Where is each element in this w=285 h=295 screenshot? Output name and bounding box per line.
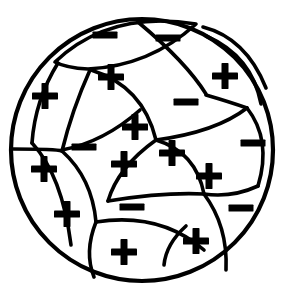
sign-bar-horizontal: [72, 144, 97, 151]
sign-bar-horizontal: [156, 35, 181, 42]
sign-bar-vertical: [121, 151, 128, 177]
minus-sign: −: [120, 204, 145, 211]
sign-bar-vertical: [41, 156, 48, 182]
minus-sign: −: [93, 32, 118, 39]
figure-root: Mosaic of curved cells inside a circle A…: [0, 0, 285, 295]
minus-sign: −: [156, 35, 181, 42]
sign-bar-vertical: [169, 140, 176, 166]
minus-sign: −: [174, 99, 199, 106]
sign-bar-vertical: [193, 228, 200, 254]
sign-bar-horizontal: [229, 205, 254, 212]
sign-bar-horizontal: [93, 32, 118, 39]
sign-bar-vertical: [42, 83, 49, 109]
sign-bar-vertical: [132, 114, 139, 140]
minus-sign: −: [229, 205, 254, 212]
sign-bar-vertical: [108, 64, 115, 90]
sign-bar-horizontal: [120, 204, 145, 211]
sign-bar-vertical: [222, 63, 229, 89]
sign-bar-vertical: [206, 163, 213, 189]
sign-bar-vertical: [64, 201, 71, 227]
minus-sign: −: [72, 144, 97, 151]
sign-bar-vertical: [121, 239, 128, 265]
sign-bar-horizontal: [241, 140, 266, 147]
minus-sign: −: [241, 140, 266, 147]
sign-bar-horizontal: [174, 99, 199, 106]
charge-mosaic-diagram: −−+++−+−−++++−−+++: [0, 0, 285, 295]
